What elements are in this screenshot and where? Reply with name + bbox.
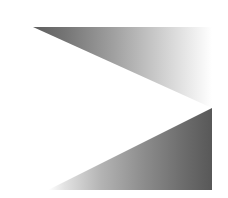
artwork-canvas bbox=[0, 0, 228, 198]
chevron-graphic bbox=[0, 0, 228, 198]
